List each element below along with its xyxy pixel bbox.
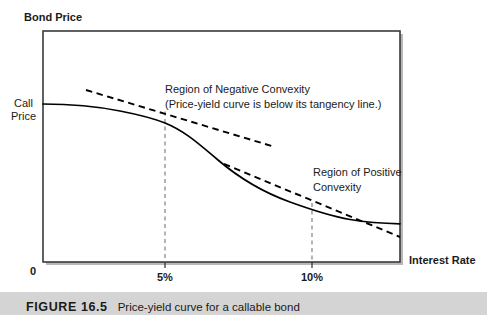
- figure-canvas: Bond Price Interest Rate 0 Call Price 5%…: [0, 0, 487, 292]
- negative-convexity-annotation-line2: (Price-yield curve is below its tangency…: [165, 98, 381, 110]
- figure-caption: FIGURE 16.5Price-yield curve for a calla…: [26, 297, 300, 315]
- figure-caption-band: FIGURE 16.5Price-yield curve for a calla…: [0, 292, 487, 315]
- figure-caption-label: FIGURE 16.5: [26, 300, 108, 314]
- figure-caption-text: Price-yield curve for a callable bond: [118, 301, 300, 313]
- y-axis-title: Bond Price: [24, 11, 82, 23]
- origin-label: 0: [30, 265, 36, 277]
- figure-container: Bond Price Interest Rate 0 Call Price 5%…: [0, 0, 487, 315]
- positive-convexity-annotation-line2: Convexity: [313, 181, 362, 193]
- price-yield-chart: Bond Price Interest Rate 0 Call Price 5%…: [0, 0, 487, 292]
- call-price-label-line1: Call: [14, 97, 33, 109]
- x-axis-title: Interest Rate: [409, 254, 476, 266]
- call-price-label-line2: Price: [11, 110, 36, 122]
- plot-frame: [43, 31, 400, 262]
- tick-label-5pct: 5%: [157, 271, 173, 283]
- positive-convexity-annotation-line1: Region of Positive: [313, 166, 402, 178]
- negative-convexity-annotation-line1: Region of Negative Convexity: [165, 83, 310, 95]
- tick-label-10pct: 10%: [301, 271, 323, 283]
